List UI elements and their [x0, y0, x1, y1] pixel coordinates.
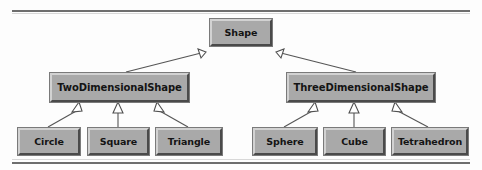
class-node-sphere[interactable]: Sphere — [253, 128, 317, 155]
class-node-threedimensionalshape-label: ThreeDimensionalShape — [294, 82, 429, 93]
class-node-triangle-label: Triangle — [168, 136, 210, 147]
class-node-sphere-label: Sphere — [266, 136, 303, 147]
class-node-twodimensionalshape[interactable]: TwoDimensionalShape — [50, 73, 189, 102]
class-node-cube-label: Cube — [341, 136, 368, 147]
class-node-cube[interactable]: Cube — [324, 128, 385, 155]
class-node-square-label: Square — [100, 136, 137, 147]
class-node-shape[interactable]: Shape — [210, 19, 272, 46]
arrowhead-triangle-to-2d — [154, 102, 164, 112]
class-node-circle[interactable]: Circle — [18, 128, 80, 155]
class-node-twodimensionalshape-label: TwoDimensionalShape — [57, 82, 182, 93]
class-node-circle-label: Circle — [34, 136, 64, 147]
class-node-triangle[interactable]: Triangle — [156, 128, 222, 155]
arrowhead-cube-to-3d — [349, 102, 359, 113]
edge-tetrahedron-to-3d — [396, 110, 428, 127]
class-node-threedimensionalshape[interactable]: ThreeDimensionalShape — [287, 73, 435, 102]
arrowhead-tetrahedron-to-3d — [392, 102, 402, 112]
edge-3d-to-shape — [277, 52, 356, 72]
class-diagram-canvas: Shape TwoDimensionalShape ThreeDimension… — [0, 0, 482, 170]
arrowhead-sphere-to-3d — [308, 102, 318, 112]
edge-sphere-to-3d — [284, 110, 314, 127]
edge-circle-to-2d — [48, 110, 78, 127]
arrowhead-2d-to-shape — [198, 49, 206, 58]
arrowhead-circle-to-2d — [72, 102, 82, 112]
class-node-shape-label: Shape — [225, 27, 258, 38]
edge-2d-to-shape — [126, 52, 205, 72]
arrowhead-3d-to-shape — [276, 49, 284, 58]
class-node-tetrahedron[interactable]: Tetrahedron — [392, 128, 468, 155]
edge-triangle-to-2d — [158, 110, 188, 127]
class-node-tetrahedron-label: Tetrahedron — [398, 136, 462, 147]
class-node-square[interactable]: Square — [88, 128, 149, 155]
arrowhead-square-to-2d — [113, 102, 123, 113]
